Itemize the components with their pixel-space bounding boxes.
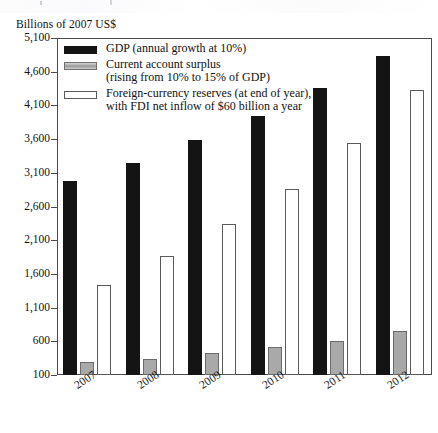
legend-item-reserves: Foreign-currency reserves (at end of yea… [64, 87, 364, 114]
bar-reserves-2012 [410, 90, 424, 375]
legend-label-reserves-line2: with FDI net inflow of $60 billion a yea… [106, 100, 311, 114]
bar-group [370, 38, 433, 375]
legend-item-gdp: GDP (annual growth at 10%) [64, 42, 364, 56]
bar-gdp-2012 [376, 56, 390, 375]
bar-gdp-2007 [63, 181, 77, 375]
bar-gdp-2010 [251, 116, 265, 375]
legend-label-surplus-line2: (rising from 10% to 15% of GDP) [106, 71, 270, 85]
legend-label-reserves-line1: Foreign-currency reserves (at end of yea… [106, 86, 311, 100]
bar-gdp-2011 [313, 88, 327, 375]
legend-swatch-gdp-icon [64, 46, 97, 54]
bar-reserves-2008 [160, 256, 174, 375]
legend-item-surplus: Current account surplus (rising from 10%… [64, 58, 364, 85]
y-axis-labels: 1006001,1001,6002,1002,6003,1003,6004,10… [0, 0, 50, 433]
y-axis-tick-label: 3,600 [3, 133, 50, 144]
y-axis-tick-label: 4,100 [3, 99, 50, 110]
legend-label-gdp-line1: GDP (annual growth at 10%) [106, 41, 246, 55]
y-axis-tick-label: 2,100 [3, 234, 50, 245]
legend-swatch-reserves-icon [64, 91, 97, 99]
chart-legend: GDP (annual growth at 10%) Current accou… [64, 42, 364, 116]
legend-label-surplus: Current account surplus (rising from 10%… [106, 58, 270, 85]
y-axis-tick-label: 3,100 [3, 167, 50, 178]
y-axis-tick-label: 1,600 [3, 268, 50, 279]
bar-reserves-2010 [285, 189, 299, 375]
bar-gdp-2008 [126, 163, 140, 375]
chart-figure: Billions of 2007 US$ 1006001,1001,6002,1… [0, 0, 438, 433]
bar-gdp-2009 [188, 140, 202, 375]
legend-label-gdp: GDP (annual growth at 10%) [106, 42, 246, 56]
y-axis-tick-label: 1,100 [3, 302, 50, 313]
y-axis-tick [51, 375, 57, 376]
legend-label-surplus-line1: Current account surplus [106, 57, 221, 71]
y-axis-tick-label: 5,100 [3, 32, 50, 43]
scan-artifact-band [0, 0, 438, 13]
y-axis-tick-label: 4,600 [3, 66, 50, 77]
bar-reserves-2009 [222, 224, 236, 375]
legend-label-reserves: Foreign-currency reserves (at end of yea… [106, 87, 311, 114]
y-axis-tick-label: 600 [3, 335, 50, 346]
x-axis-labels: 200720082009201020112012 [57, 377, 432, 433]
y-axis-tick-label: 2,600 [3, 201, 50, 212]
y-axis-tick-label: 100 [3, 369, 50, 380]
bar-reserves-2011 [347, 143, 361, 375]
legend-swatch-surplus-icon [64, 62, 97, 70]
bar-reserves-2007 [97, 285, 111, 375]
